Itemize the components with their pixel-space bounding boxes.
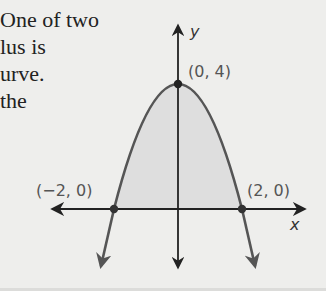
parabola-right-extension xyxy=(242,209,255,266)
x-axis-label: x xyxy=(289,215,300,234)
parabola-left-extension xyxy=(101,209,114,266)
left-intercept-point xyxy=(110,205,118,213)
vertex-label: (0, 4) xyxy=(188,62,231,81)
right-intercept-label: (2, 0) xyxy=(247,181,290,200)
right-intercept-point xyxy=(238,205,246,213)
left-intercept-label: (−2, 0) xyxy=(36,181,92,200)
vertex-point xyxy=(174,80,182,88)
parabola-graph: y x (0, 4) (−2, 0) (2, 0) xyxy=(0,0,326,291)
y-axis-label: y xyxy=(189,22,200,41)
